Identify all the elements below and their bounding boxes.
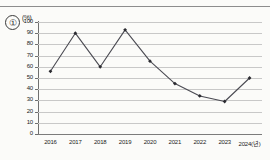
series-markers bbox=[49, 28, 252, 103]
line-series-chart bbox=[0, 0, 270, 160]
series-line bbox=[50, 30, 249, 102]
data-point-marker bbox=[198, 94, 202, 98]
